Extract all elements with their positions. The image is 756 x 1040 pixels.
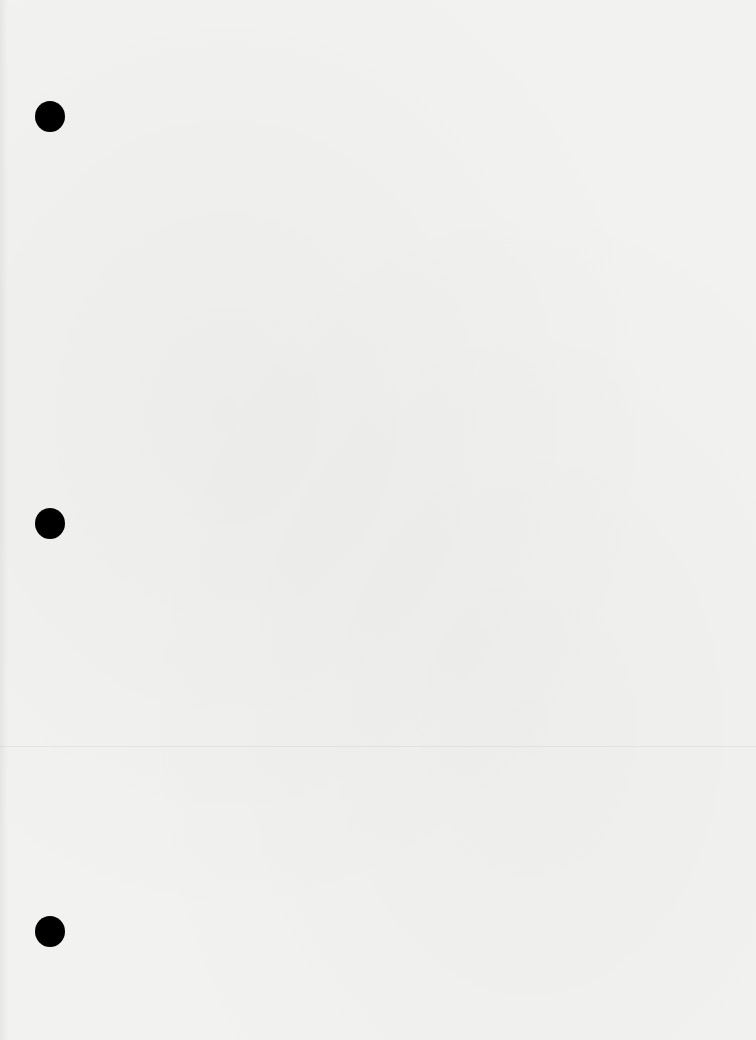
punch-hole-middle — [35, 508, 65, 539]
paper-edge-shadow — [0, 0, 8, 1040]
punch-hole-top — [35, 101, 65, 132]
paper-fold-line — [0, 746, 756, 747]
blank-paper-sheet — [0, 0, 756, 1040]
punch-hole-bottom — [35, 916, 65, 947]
